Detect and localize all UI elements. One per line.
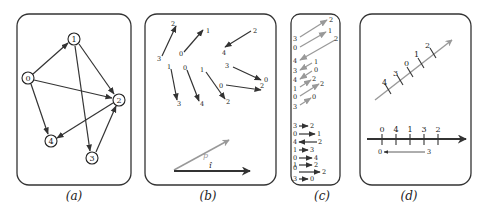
pair-label: 2	[260, 82, 264, 90]
panel-b-frame	[145, 14, 276, 185]
pair-arrow-3-2	[162, 26, 176, 56]
node-2-label: 2	[116, 96, 121, 105]
proj-label: 3	[293, 103, 297, 111]
small-arrow-label: 0	[378, 148, 382, 156]
proj-label: 1	[293, 85, 297, 93]
tick-label: 2	[435, 125, 440, 134]
pair-label: 3	[157, 55, 161, 63]
pair-label: 3	[177, 100, 181, 108]
tick-label: 0	[404, 59, 409, 68]
pair-label: 4	[200, 100, 204, 108]
proj-label: 3	[293, 67, 297, 75]
proj-label: 4	[293, 76, 297, 84]
caption-b: (b)	[199, 189, 216, 203]
proj-arrow	[300, 63, 312, 70]
edge-1-3	[75, 46, 90, 151]
node-3-label: 3	[89, 154, 94, 163]
panel-c: 3 2 0 1 2 4 1 3 0 4 1 2 0 2 3 0	[291, 14, 340, 203]
tick-label: 0	[379, 125, 384, 134]
horiz-label: 2	[322, 168, 326, 176]
horiz-label: 1	[317, 130, 321, 138]
proj-label: 3	[293, 35, 297, 43]
tick-label: 4	[393, 125, 398, 134]
vector-p-label: p	[203, 151, 208, 160]
caption-a: (a)	[66, 189, 83, 203]
tick-label: 1	[414, 50, 419, 59]
pair-arrow-2-4	[225, 31, 251, 47]
pair-arrow-3-0	[233, 67, 261, 80]
tick-label: 2	[425, 41, 430, 50]
pair-label: 1	[167, 63, 171, 71]
pair-label: 0	[219, 82, 223, 90]
vector-p-arrow	[174, 140, 229, 170]
tick-label: 3	[393, 69, 398, 78]
proj-arrow	[300, 71, 312, 79]
node-0-label: 0	[25, 74, 30, 83]
horizontal-pairs: 3 2 0 1 2 4 1 3 0 4 1 2 0 2 3 0	[293, 122, 326, 183]
pair-label: 2	[253, 27, 257, 35]
horiz-label: 4	[293, 138, 297, 146]
horiz-label: 0	[310, 175, 314, 183]
horiz-label: 0	[293, 164, 297, 172]
proj-arrow	[300, 98, 311, 105]
proj-label: 0	[312, 93, 316, 101]
tick-label: 4	[382, 78, 387, 87]
figure-canvas: 0 1 2 3 4 (a) 3 2 0 1 2 4 1 3 0 4	[0, 0, 489, 212]
proj-arrow	[300, 40, 335, 60]
edge-1-2	[79, 44, 114, 94]
node-4-label: 4	[48, 137, 53, 146]
horiz-label: 2	[314, 161, 318, 169]
tick-label: 1	[407, 125, 412, 134]
horiz-label: 3	[293, 175, 297, 183]
projection-axis	[375, 40, 452, 100]
proj-label: 2	[334, 35, 338, 43]
pair-arrow-0-4	[187, 70, 199, 101]
tick-label: 3	[421, 125, 426, 134]
axis-ticks: 0 4 1 3 2	[379, 125, 440, 145]
caption-c: (c)	[314, 189, 330, 203]
pair-arrow-0-2	[226, 85, 261, 90]
vector-i-label: î	[209, 161, 213, 170]
edge-3-2	[96, 106, 116, 152]
panel-d: 4 3 0 1 2 0 4 1 3 2 0 3 (d)	[360, 14, 471, 203]
pair-arrow-1-3	[171, 69, 177, 100]
proj-arrow	[300, 80, 311, 87]
caption-d: (d)	[400, 189, 417, 203]
edge-0-4	[31, 84, 48, 134]
proj-label: 2	[312, 75, 316, 83]
pair-label: 1	[200, 66, 204, 74]
proj-label: 0	[314, 66, 318, 74]
proj-label: 2	[329, 16, 333, 24]
proj-label: 0	[293, 44, 297, 52]
graph-edges	[31, 43, 116, 152]
horiz-label: 0	[293, 130, 297, 138]
horiz-label: 3	[310, 146, 314, 154]
proj-label: 1	[314, 58, 318, 66]
pair-arrow-0-1	[184, 30, 203, 52]
proj-label: 4	[293, 57, 297, 65]
edge-0-1	[33, 43, 68, 74]
projected-pairs: 3 2 0 1 2 4 1 3 0 4 1 2 0 2 3 0	[293, 16, 338, 111]
horiz-label: 3	[293, 122, 297, 130]
pair-label: 3	[225, 62, 229, 70]
pair-label: 0	[183, 64, 187, 72]
pair-label: 2	[226, 98, 230, 106]
tick	[407, 67, 413, 77]
proj-label: 2	[320, 80, 324, 88]
panel-b: 3 2 0 1 2 4 1 3 0 4 1 2 3 0 0 2 p î (b)	[145, 14, 276, 203]
pair-label: 1	[206, 27, 210, 35]
small-arrow-label: 3	[427, 148, 431, 156]
horiz-label: 2	[310, 122, 314, 130]
node-1-label: 1	[71, 35, 76, 44]
proj-label: 0	[293, 93, 297, 101]
horiz-label: 2	[318, 138, 322, 146]
diagonal-ticks: 4 3 0 1 2	[382, 41, 436, 94]
panel-a: 0 1 2 3 4 (a)	[17, 14, 131, 203]
pair-label: 0	[179, 50, 183, 58]
pair-label: 0	[264, 76, 268, 84]
horiz-label: 1	[293, 146, 297, 154]
pair-label: 4	[222, 49, 226, 57]
graph-nodes: 0 1 2 3 4	[22, 33, 125, 164]
pair-label: 2	[171, 20, 175, 28]
proj-label: 1	[328, 27, 332, 35]
